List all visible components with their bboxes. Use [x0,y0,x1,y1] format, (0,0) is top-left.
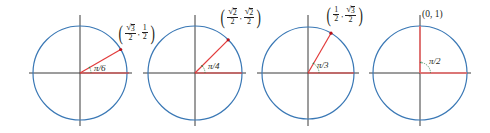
right-paren: ) [150,22,154,44]
fraction-y: 1 2 [142,24,148,42]
point-label-pi-4: ( √2 2 , √2 2 ) [219,6,263,28]
right-paren: ) [358,4,362,26]
fraction-x: √3 2 [125,23,135,42]
left-paren: ( [220,6,224,28]
angle-arc [202,66,205,73]
left-paren: ( [326,4,330,26]
right-paren: ) [257,6,261,28]
terminal-point [119,48,122,51]
terminal-point [227,38,230,41]
fraction-x: 1 2 [333,6,339,24]
angle-label-pi-6: π/6 [94,64,106,73]
point-label-pi-6: ( √3 2 , 1 2 ) [117,22,156,44]
angle-label-pi-2: π/2 [429,57,441,66]
angle-arc [90,68,92,74]
angle-label-pi-4: π/4 [208,62,220,71]
fraction-y: √3 2 [345,5,355,24]
fraction-y: √2 2 [244,7,254,26]
panel-pi-over-4 [143,15,246,126]
point-label-pi-2: (0, 1) [422,10,443,20]
panel-pi-over-3 [257,15,359,126]
left-paren: ( [118,22,122,44]
terminal-point [329,32,332,35]
angle-label-pi-3: π/3 [317,61,329,70]
point-label-pi-3: ( 1 2 , √3 2 ) [325,4,364,26]
fraction-x: √2 2 [227,7,237,26]
panel-pi-over-2 [369,15,471,126]
unit-circle-figure: π/6 π/4 π/3 π/2 ( √3 2 , 1 2 ) ( √2 2 , … [0,0,490,133]
